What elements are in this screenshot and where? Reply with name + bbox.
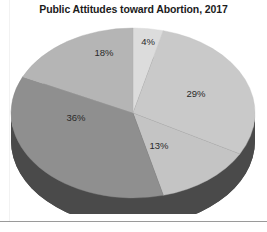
chart-title: Public Attitudes toward Abortion, 2017 [0, 2, 267, 16]
pie-slices [11, 28, 255, 198]
pie-label-29: 29% [186, 88, 206, 99]
chart-figure: Public Attitudes toward Abortion, 2017 [0, 0, 267, 232]
figure-bottom-border [0, 221, 267, 222]
figure-footer-space [0, 223, 267, 232]
figure-left-border [9, 0, 10, 221]
pie-label-18: 18% [94, 47, 114, 58]
pie-plot-area: 4% 29% 13% 36% 18% [0, 18, 267, 214]
pie-label-13: 13% [149, 140, 169, 151]
pie-label-36: 36% [66, 112, 86, 123]
pie-chart-svg: 4% 29% 13% 36% 18% [0, 18, 267, 214]
pie-label-4: 4% [141, 36, 155, 47]
